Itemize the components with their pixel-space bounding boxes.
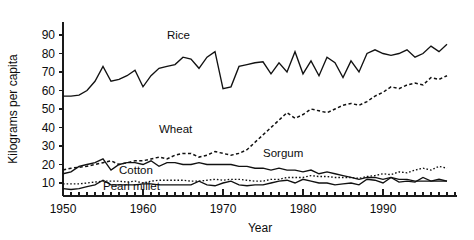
y-axis-title: Kilograms per capita	[6, 54, 20, 164]
series-line-wheat	[63, 76, 447, 170]
y-axis-tick-label: 80	[42, 47, 56, 61]
y-axis-tick-label: 30	[42, 139, 56, 153]
series-label-wheat: Wheat	[159, 123, 193, 135]
x-axis-tick-label: 1960	[130, 202, 157, 216]
y-axis-tick-label: 40	[42, 121, 56, 135]
series-label-rice: Rice	[167, 29, 190, 41]
y-axis-tick-label: 60	[42, 84, 56, 98]
line-chart: 10203040506070809019501960197019801990 R…	[0, 0, 474, 240]
chart-container: 10203040506070809019501960197019801990 R…	[0, 0, 474, 240]
x-axis-tick-label: 1990	[370, 202, 397, 216]
y-axis-tick-label: 20	[42, 158, 56, 172]
y-axis-tick-label: 70	[42, 65, 56, 79]
y-axis-tick-label: 50	[42, 102, 56, 116]
x-axis-tick-label: 1980	[290, 202, 317, 216]
series-label-sorgum: Sorgum	[263, 147, 303, 159]
series-label-cotton: Cotton	[119, 164, 153, 176]
x-axis-tick-label: 1950	[50, 202, 77, 216]
x-axis-title: Year	[248, 221, 272, 235]
series-label-pearl-millet: Pearl millet	[103, 180, 161, 192]
series-annotations: RiceWheatSorgumCottonPearl millet	[103, 29, 303, 193]
x-axis-tick-label: 1970	[210, 202, 237, 216]
y-axis-tick-label: 10	[42, 176, 56, 190]
y-axis-tick-label: 90	[42, 28, 56, 42]
